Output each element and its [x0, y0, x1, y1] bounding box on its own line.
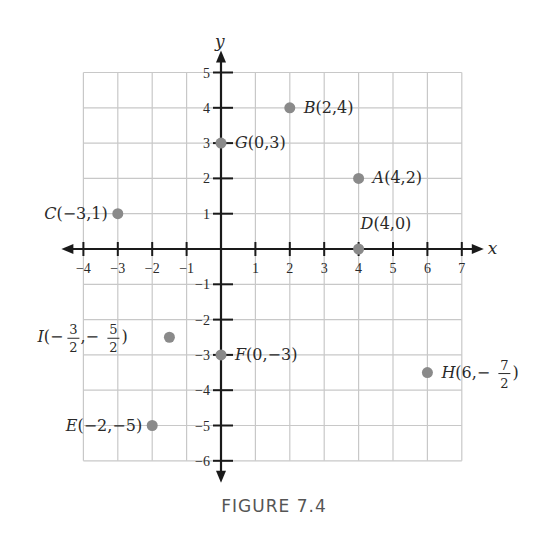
y-tick-label: −1	[195, 277, 210, 292]
label-h: H(6,−72)	[440, 358, 518, 391]
point-f	[216, 349, 227, 360]
x-tick-label: 6	[424, 261, 431, 276]
svg-text:,−: ,−	[80, 327, 99, 346]
svg-text:2: 2	[500, 376, 508, 391]
x-tick-label: −4	[76, 261, 91, 276]
label-b: B(2,4)	[303, 98, 354, 117]
svg-text:I(−: I(−	[36, 327, 63, 346]
label-g: G(0,3)	[235, 133, 286, 152]
tick-labels: −4−3−2−1123456754321−1−2−3−4−5−6	[76, 66, 465, 469]
label-e: E(−2,−5)	[65, 416, 142, 435]
y-tick-label: 3	[203, 136, 210, 151]
svg-text:7: 7	[500, 358, 508, 373]
y-tick-label: −3	[195, 348, 210, 363]
label-c: C(−3,1)	[44, 204, 108, 223]
svg-text:): )	[121, 327, 127, 346]
label-f: F(0,−3)	[234, 345, 297, 364]
point-a	[353, 173, 364, 184]
y-tick-label: 5	[203, 66, 210, 81]
point-b	[284, 102, 295, 113]
x-tick-label: 2	[286, 261, 293, 276]
y-tick-label: −5	[195, 419, 210, 434]
svg-text:5: 5	[109, 322, 117, 337]
label-a: A(4,2)	[371, 168, 423, 187]
svg-text:H(6,−: H(6,−	[440, 363, 490, 382]
x-tick-label: −2	[145, 261, 160, 276]
y-tick-label: −2	[195, 313, 210, 328]
y-axis-down-arrow-icon	[216, 471, 226, 483]
y-axis-up-arrow-icon	[216, 51, 226, 63]
label-i: I(−32,−52)	[36, 322, 127, 355]
point-c	[112, 208, 123, 219]
svg-text:2: 2	[69, 340, 77, 355]
svg-text:3: 3	[69, 322, 77, 337]
x-tick-label: −1	[179, 261, 194, 276]
y-tick-label: 1	[203, 207, 210, 222]
coordinate-plane: xy −4−3−2−1123456754321−1−2−3−4−5−6 A(4,…	[0, 0, 548, 490]
x-tick-label: −3	[110, 261, 125, 276]
x-tick-label: 3	[321, 261, 328, 276]
point-labels: A(4,2)B(2,4)C(−3,1)D(4,0)E(−2,−5)F(0,−3)…	[36, 98, 518, 435]
y-axis-label: y	[214, 31, 225, 51]
x-tick-label: 7	[458, 261, 465, 276]
y-tick-label: 2	[203, 171, 210, 186]
label-d: D(4,0)	[360, 214, 412, 233]
svg-text:2: 2	[109, 340, 117, 355]
grid-lines	[83, 73, 461, 461]
point-h	[422, 367, 433, 378]
point-g	[216, 138, 227, 149]
y-tick-label: −4	[195, 383, 210, 398]
figure-caption: FIGURE 7.4	[0, 496, 548, 516]
point-i	[164, 332, 175, 343]
x-axis-left-arrow-icon	[61, 244, 73, 254]
svg-text:): )	[512, 363, 518, 382]
x-axis-label: x	[488, 238, 498, 258]
point-e	[147, 420, 158, 431]
x-axis-right-arrow-icon	[472, 244, 484, 254]
x-tick-label: 5	[390, 261, 397, 276]
y-tick-label: −6	[195, 454, 210, 469]
x-tick-label: 4	[355, 261, 362, 276]
x-tick-label: 1	[252, 261, 259, 276]
point-d	[353, 244, 364, 255]
y-tick-label: 4	[203, 101, 210, 116]
